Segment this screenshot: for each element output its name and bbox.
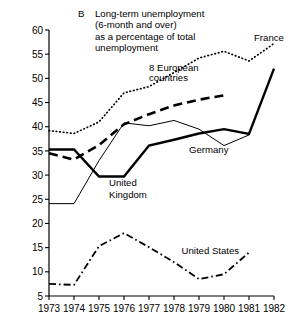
title-line-4: unemployment	[95, 42, 158, 53]
x-axis-ticks: 1973197419751976197719781979198019811982	[38, 296, 286, 314]
x-tick-label-1977: 1977	[138, 303, 161, 314]
united-states-label: United States	[182, 245, 240, 256]
y-tick-label-60: 60	[32, 25, 44, 36]
y-tick-label-30: 30	[32, 170, 44, 181]
series-line-germany	[49, 120, 249, 203]
x-tick-label-1978: 1978	[163, 303, 186, 314]
y-tick-label-55: 55	[32, 49, 44, 60]
united-kingdom-label: United	[109, 177, 137, 188]
chart-canvas: 5101520253035404550556019731974197519761…	[0, 0, 301, 323]
eight-european-countries-label-2: countries	[149, 72, 188, 83]
y-tick-label-5: 5	[37, 291, 43, 302]
x-tick-label-1982: 1982	[263, 303, 286, 314]
series-line-france	[49, 44, 274, 134]
series-annotations: France8 EuropeancountriesGermanyUnitedKi…	[109, 32, 284, 257]
y-tick-label-50: 50	[32, 73, 44, 84]
chart-figure: 5101520253035404550556019731974197519761…	[0, 0, 301, 323]
y-tick-label-45: 45	[32, 97, 44, 108]
y-tick-label-15: 15	[32, 242, 44, 253]
panel-letter: B	[78, 8, 84, 19]
x-tick-label-1979: 1979	[188, 303, 211, 314]
chart-title-block: BLong-term unemployment(6-month and over…	[78, 8, 205, 53]
germany-label: Germany	[189, 144, 229, 155]
y-tick-label-10: 10	[32, 266, 44, 277]
x-tick-label-1980: 1980	[213, 303, 236, 314]
title-line-1: Long-term unemployment	[95, 8, 205, 19]
title-line-2: (6-month and over)	[95, 19, 177, 30]
title-line-3: as a percentage of total	[95, 31, 195, 42]
x-tick-label-1976: 1976	[113, 303, 136, 314]
eight-european-countries-label: 8 European	[149, 62, 199, 73]
x-tick-label-1981: 1981	[238, 303, 261, 314]
y-tick-label-40: 40	[32, 121, 44, 132]
y-tick-label-35: 35	[32, 146, 44, 157]
y-tick-label-25: 25	[32, 194, 44, 205]
y-axis-ticks: 51015202530354045505560	[32, 25, 49, 302]
united-kingdom-label-2: Kingdom	[109, 189, 147, 200]
series-line-united-states	[49, 233, 249, 285]
france-label: France	[254, 32, 284, 43]
x-tick-label-1974: 1974	[63, 303, 86, 314]
y-tick-label-20: 20	[32, 218, 44, 229]
x-tick-label-1973: 1973	[38, 303, 61, 314]
x-tick-label-1975: 1975	[88, 303, 111, 314]
